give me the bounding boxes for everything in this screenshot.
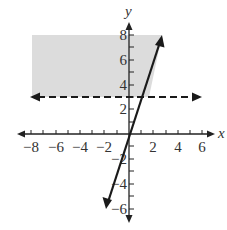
x-tick-label: −6 [48, 139, 64, 155]
x-axis-label: x [217, 125, 225, 141]
dashed-line-right-arrow [192, 93, 202, 102]
x-axis-right-arrow [207, 131, 215, 138]
x-axis-left-arrow [17, 131, 25, 138]
shaded-region [32, 35, 162, 97]
x-tick-label: −4 [72, 139, 88, 155]
graph: −8 −6 −4 −2 2 4 6 8 6 4 2 −2 −4 −6 x y [0, 0, 227, 230]
y-tick-label: −6 [111, 201, 127, 217]
x-tick-label: 4 [174, 139, 182, 155]
x-tick-label: 6 [198, 139, 206, 155]
y-tick-label: 4 [120, 77, 128, 93]
x-tick-label: −2 [96, 139, 112, 155]
x-tick-label: −8 [23, 139, 39, 155]
y-tick-label: 6 [120, 52, 128, 68]
y-tick-label: 2 [120, 101, 128, 117]
x-tick-label: 2 [149, 139, 157, 155]
y-tick-label: 8 [120, 27, 128, 43]
y-axis-label: y [123, 3, 132, 19]
